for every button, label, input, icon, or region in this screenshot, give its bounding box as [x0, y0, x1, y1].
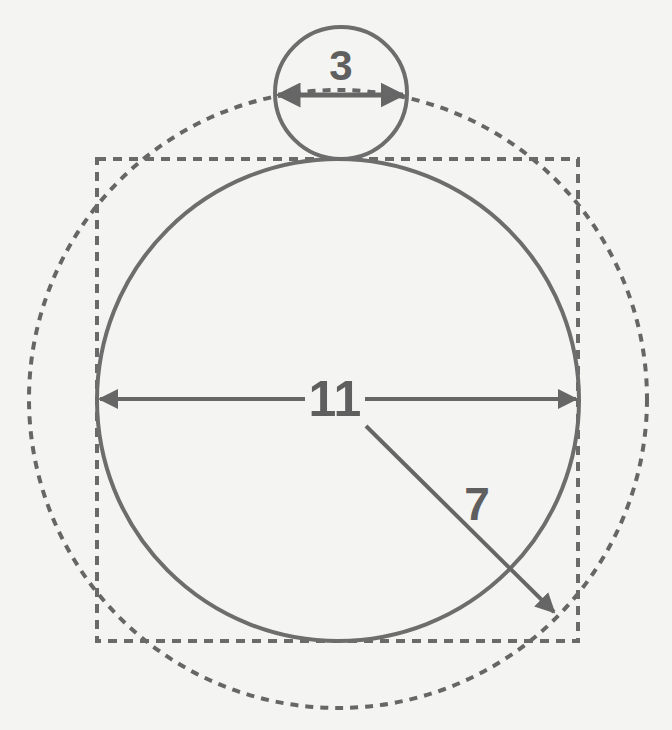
- small-diameter-label: 3: [329, 42, 352, 89]
- big-diameter-label: 11: [309, 371, 362, 427]
- diagram-canvas: 3 11 7: [0, 0, 672, 730]
- outer-radius-label: 7: [464, 478, 490, 530]
- geometry-diagram: 3 11 7: [0, 0, 672, 730]
- outer-radius-arrow: [366, 426, 554, 612]
